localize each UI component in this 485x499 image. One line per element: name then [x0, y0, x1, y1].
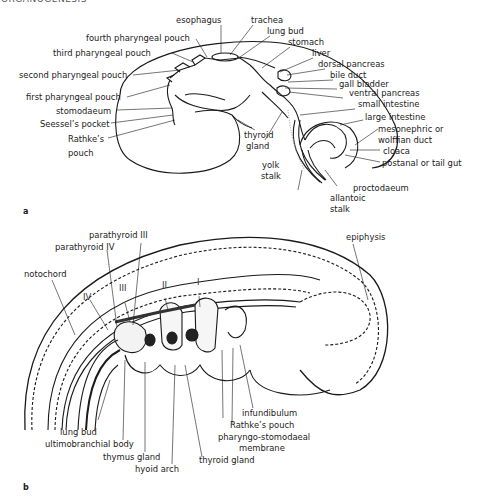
- label-esophagus: esophagus: [176, 15, 221, 25]
- label-yolk-stalk: yolk: [262, 160, 279, 170]
- label-infundibulum: infundibulum: [242, 408, 297, 418]
- label-thyroid-gland-2: gland: [246, 141, 269, 151]
- label-small-intestine: small intestine: [358, 99, 419, 109]
- label-allantoic-stalk-2: stalk: [330, 204, 350, 214]
- label-mesonephric-duct: mesonephric or: [378, 124, 444, 134]
- figure-b-leaders: [52, 243, 368, 464]
- label-thyroid-gland-b: thyroid gland: [199, 455, 255, 465]
- label-rathkes-pouch-b: Rathke’s pouch: [230, 420, 294, 430]
- label-stomodaeum: stomodaeum: [56, 106, 111, 116]
- label-proctodaeum: proctodaeum: [353, 183, 409, 193]
- figure-page: ORGANOGENESIS: [0, 0, 485, 499]
- label-epiphysis: epiphysis: [346, 232, 385, 242]
- label-pharyngo-stomodaeal-membrane: pharyngo-stomodaeal: [218, 432, 310, 442]
- label-yolk-stalk-2: stalk: [261, 171, 281, 181]
- label-first-pharyngeal-pouch: first pharyngeal pouch: [26, 92, 121, 102]
- label-rathkes-pouch-2: pouch: [68, 148, 94, 158]
- arch-numeral-ii: II: [162, 280, 167, 290]
- label-hyoid-arch: hyoid arch: [135, 464, 179, 474]
- figure-b-drawing: [25, 237, 388, 430]
- arch-numeral-iv: IV: [83, 292, 91, 302]
- label-parathyroid-iii: parathyroid III: [89, 230, 148, 240]
- label-ventral-pancreas: ventral pancreas: [349, 88, 420, 98]
- label-thyroid-gland: thyroid: [244, 130, 274, 140]
- panel-label-b: b: [23, 483, 29, 492]
- label-lung-bud-b: lung bud: [60, 427, 97, 437]
- panel-label-a: a: [23, 207, 28, 216]
- label-postanal-gut: postanal or tail gut: [382, 158, 462, 168]
- label-large-intestine: large intestine: [365, 112, 425, 122]
- label-trachea: trachea: [251, 15, 283, 25]
- arch-numeral-iii: III: [119, 283, 127, 293]
- label-liver: liver: [312, 48, 330, 58]
- label-seessels-pocket: Seessel’s pocket: [40, 119, 110, 129]
- label-notochord: notochord: [24, 269, 67, 279]
- label-mesonephric-duct-2: wolffian duct: [378, 135, 432, 145]
- label-lung-bud: lung bud: [267, 26, 304, 36]
- label-pharyngo-stomodaeal-membrane-2: membrane: [239, 443, 285, 453]
- label-dorsal-pancreas: dorsal pancreas: [318, 59, 385, 69]
- label-thymus-gland: thymus gland: [103, 452, 160, 462]
- label-cloaca: cloaca: [383, 146, 410, 156]
- label-stomach: stomach: [288, 37, 324, 47]
- label-third-pharyngeal-pouch: third pharyngeal pouch: [53, 48, 151, 58]
- label-second-pharyngeal-pouch: second pharyngeal pouch: [19, 70, 127, 80]
- label-allantoic-stalk: allantoic: [330, 193, 366, 203]
- arch-numeral-i: I: [197, 277, 200, 287]
- label-rathkes-pouch: Rathke’s: [68, 134, 104, 144]
- label-fourth-pharyngeal-pouch: fourth pharyngeal pouch: [86, 33, 190, 43]
- label-ultimobranchial-body: ultimobranchial body: [45, 439, 134, 449]
- label-parathyroid-iv: parathyroid IV: [55, 242, 114, 252]
